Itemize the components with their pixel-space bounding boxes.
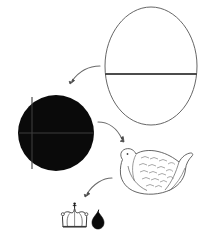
egg-group — [105, 7, 197, 125]
crown-pearl-right — [85, 213, 88, 216]
black-circle-group — [18, 95, 94, 171]
crown-pearl-left — [61, 213, 64, 216]
droplet-stem — [98, 210, 99, 213]
illustration-canvas: Egg to hen transformation sequence diagr… — [0, 0, 202, 236]
hen-eye — [127, 153, 129, 155]
crown-finial-ball — [73, 202, 75, 204]
scene-svg — [0, 0, 202, 236]
egg-outline — [105, 7, 197, 125]
